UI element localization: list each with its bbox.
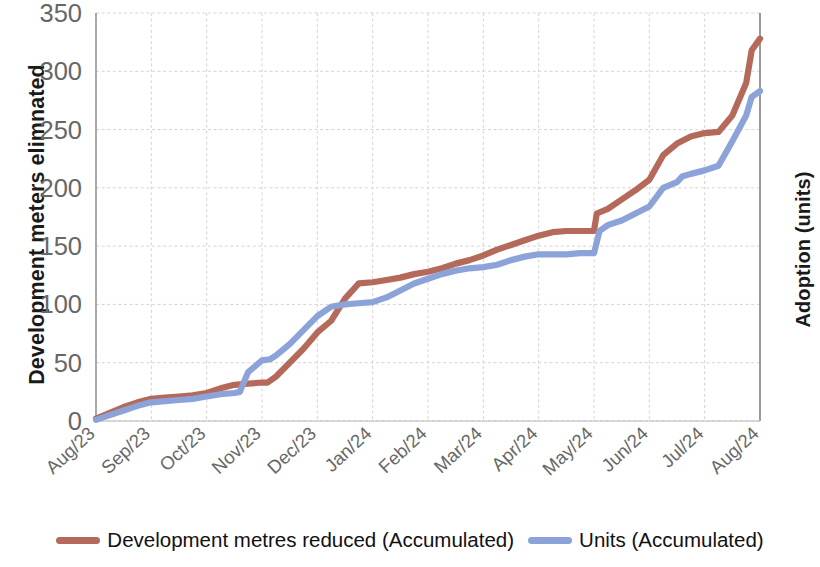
plot-area: 050100150200250300350 Aug/23Sep/23Oct/23… [0,0,820,527]
svg-text:150: 150 [39,232,82,260]
legend-item: Units (Accumulated) [528,528,764,552]
svg-text:Dec/23: Dec/23 [263,423,320,478]
svg-text:Jul/24: Jul/24 [657,423,707,472]
legend-swatch-series-1 [56,537,100,544]
gridlines [96,13,760,421]
svg-text:250: 250 [39,116,82,144]
svg-text:100: 100 [39,290,82,318]
svg-text:Feb/24: Feb/24 [374,423,430,478]
legend-swatch-series-2 [528,537,572,544]
svg-text:Oct/23: Oct/23 [155,423,209,476]
y-axis-tick-labels: 050100150200250300350 [39,0,82,435]
svg-text:350: 350 [39,0,82,27]
svg-text:Sep/23: Sep/23 [97,423,154,478]
svg-text:Mar/24: Mar/24 [430,423,486,478]
svg-text:Jun/24: Jun/24 [597,423,652,476]
legend-item: Development metres reduced (Accumulated) [56,528,514,552]
svg-text:200: 200 [39,174,82,202]
x-axis-tick-labels: Aug/23Sep/23Oct/23Nov/23Dec/23Jan/24Feb/… [42,423,763,480]
svg-text:50: 50 [54,349,82,377]
accumulated-progress-chart: Development meters elimnated Adoption (u… [0,0,820,567]
svg-text:Aug/24: Aug/24 [706,423,763,478]
svg-text:300: 300 [39,57,82,85]
svg-text:Apr/24: Apr/24 [487,423,541,476]
svg-text:Jan/24: Jan/24 [320,423,375,476]
svg-text:May/24: May/24 [538,423,597,480]
legend-label-series-2: Units (Accumulated) [579,528,764,552]
svg-text:Nov/23: Nov/23 [208,423,265,478]
legend-label-series-1: Development metres reduced (Accumulated) [107,528,514,552]
chart-legend: Development metres reduced (Accumulated)… [0,528,820,552]
